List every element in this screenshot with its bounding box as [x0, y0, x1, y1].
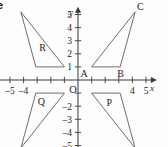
y-tick-label: 1 — [67, 62, 72, 72]
y-axis-label: y — [68, 7, 73, 17]
origin-label: O — [69, 84, 77, 95]
vertex-label-c: C — [137, 1, 144, 12]
y-tick-label: –4 — [62, 128, 73, 138]
x-axis-label: x — [149, 83, 154, 93]
x-tick-label: 4 — [130, 86, 135, 96]
y-tick-label: –5 — [62, 141, 73, 147]
triangle-label-p: P — [106, 97, 112, 108]
x-tick-label: 5 — [144, 86, 149, 96]
y-tick-label: –2 — [62, 102, 73, 112]
coordinate-plot: RABCQP–5–44554321–2–3–4–5Oxy — [0, 0, 168, 147]
y-axis-arrow-icon — [75, 7, 81, 13]
y-tick-label: –3 — [62, 115, 73, 125]
triangle-label-q: Q — [38, 96, 46, 107]
x-tick-label: –5 — [4, 86, 15, 96]
triangle-label-r: R — [39, 42, 46, 53]
y-tick-label: 3 — [67, 36, 72, 46]
x-tick-label: –4 — [18, 86, 29, 96]
y-tick-label: 2 — [67, 49, 72, 59]
triangle-p — [92, 93, 136, 147]
triangle-r — [21, 12, 65, 67]
vertex-label-b: B — [117, 68, 124, 79]
coordinate-plane-figure: e RABCQP–5–44554321–2–3–4–5Oxy — [0, 0, 168, 147]
y-tick-label: 4 — [67, 23, 72, 33]
triangle-abc — [92, 12, 136, 67]
vertex-label-a: A — [81, 68, 89, 79]
